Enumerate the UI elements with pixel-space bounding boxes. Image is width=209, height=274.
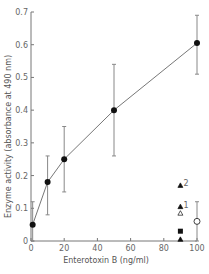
filled-square-marker <box>178 229 183 234</box>
data-point <box>61 156 67 162</box>
data-point <box>45 179 51 185</box>
filled-triangle-marker <box>178 204 183 209</box>
x-tick-label: 40 <box>92 244 102 253</box>
y-tick-label: 0.1 <box>15 204 28 213</box>
series-line <box>33 43 197 225</box>
data-point <box>194 40 200 46</box>
data-point <box>111 107 117 113</box>
y-tick-label: 0 <box>23 237 28 246</box>
data-point <box>30 222 36 228</box>
marker-label: 1 <box>183 201 188 210</box>
open-triangle-marker <box>178 211 183 216</box>
y-tick-label: 0.5 <box>15 73 28 82</box>
x-tick-label: 60 <box>126 244 136 253</box>
x-tick-label: 80 <box>159 244 169 253</box>
chart-container: 00.10.20.30.40.50.60.7020406080100Entero… <box>0 0 209 274</box>
y-tick-label: 0.6 <box>15 41 28 50</box>
open-circle-marker <box>194 218 200 224</box>
filled-triangle-marker <box>178 237 183 242</box>
y-tick-label: 0.4 <box>15 106 28 115</box>
x-tick-label: 100 <box>189 244 204 253</box>
enzyme-activity-chart: 00.10.20.30.40.50.60.7020406080100Entero… <box>0 0 209 274</box>
x-axis-label: Enterotoxin B (ng/ml) <box>63 256 149 265</box>
y-tick-label: 0.7 <box>15 8 28 17</box>
marker-label: 2 <box>183 179 188 188</box>
y-tick-label: 0.3 <box>15 139 28 148</box>
filled-triangle-marker <box>178 183 183 188</box>
y-axis-label: Enzyme activity (absorbance at 490 nm) <box>4 55 13 218</box>
y-tick-label: 0.2 <box>15 172 28 181</box>
x-tick-label: 20 <box>59 244 69 253</box>
x-tick-label: 0 <box>28 244 33 253</box>
